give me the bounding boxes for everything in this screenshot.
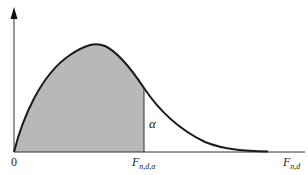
f-distribution-plot (0, 0, 308, 175)
y-axis-arrow-icon (11, 7, 18, 19)
x-axis-subscript: n,d (290, 162, 300, 171)
alpha-label: α (149, 116, 156, 132)
critical-value-label: Fn,d,α (132, 155, 156, 171)
x-axis-label: Fn,d (283, 155, 300, 171)
origin-label: 0 (11, 155, 17, 170)
critical-value-subscript: n,d,α (139, 162, 155, 171)
